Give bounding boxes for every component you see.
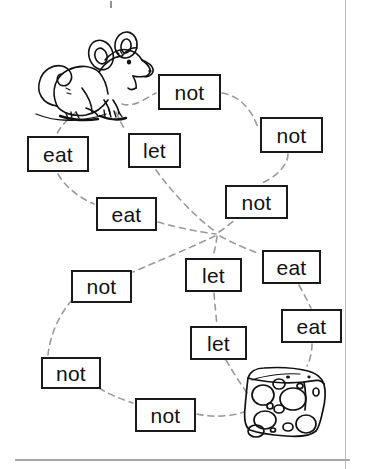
stray-ink-mark [110, 1, 112, 8]
box-eat-3[interactable]: eat [262, 250, 321, 284]
path-let1-to-hub [156, 170, 216, 232]
path-not2-to-not3 [262, 154, 288, 183]
box-eat-4[interactable]: eat [281, 309, 342, 343]
word-label: not [56, 362, 86, 383]
word-label: eat [297, 315, 327, 336]
path-eat4-to-cheese [307, 344, 312, 366]
page-border-bottom [15, 459, 350, 461]
worksheet-page: notnoteatletnoteateatletnoteatletnotnot [0, 0, 365, 469]
page-border-right [345, 0, 346, 469]
box-let-3[interactable]: let [190, 326, 247, 360]
path-mouse-to-not1 [122, 93, 156, 105]
word-label: not [87, 276, 117, 297]
word-label: eat [43, 143, 73, 164]
box-not-5[interactable]: not [41, 357, 101, 389]
word-label: not [151, 404, 181, 425]
word-label: let [207, 332, 230, 353]
path-not1-to-not2 [222, 93, 258, 128]
path-hub-to-eat3 [220, 236, 260, 254]
box-not-3[interactable]: not [225, 185, 288, 219]
box-not-2[interactable]: not [260, 117, 323, 153]
word-label: not [242, 191, 272, 212]
box-eat-1[interactable]: eat [27, 136, 89, 172]
word-label: eat [112, 203, 142, 224]
path-eat3-to-eat4 [299, 285, 311, 308]
path-eat1-to-eat2 [58, 174, 94, 204]
box-not-4[interactable]: not [71, 270, 132, 303]
box-let-1[interactable]: let [128, 133, 181, 168]
path-let2-to-let3 [214, 293, 217, 325]
word-label: let [143, 140, 166, 161]
box-not-6[interactable]: not [135, 398, 196, 432]
path-not4-to-not5 [48, 300, 72, 355]
word-label: let [202, 264, 225, 285]
path-eat2-to-hub [158, 222, 216, 234]
path-hub-to-not3 [219, 219, 236, 232]
cheese-illustration [245, 368, 325, 437]
path-not5-to-not6 [99, 388, 133, 403]
mouse-illustration [36, 31, 153, 121]
box-eat-2[interactable]: eat [96, 197, 157, 231]
path-let3-to-cheese [226, 360, 248, 394]
word-label: not [277, 124, 307, 145]
box-let-2[interactable]: let [185, 258, 242, 292]
word-label: eat [277, 256, 307, 277]
path-hub-to-let2 [213, 236, 217, 256]
box-not-1[interactable]: not [158, 74, 221, 110]
word-label: not [175, 81, 205, 102]
path-not6-to-cheese [197, 412, 244, 416]
